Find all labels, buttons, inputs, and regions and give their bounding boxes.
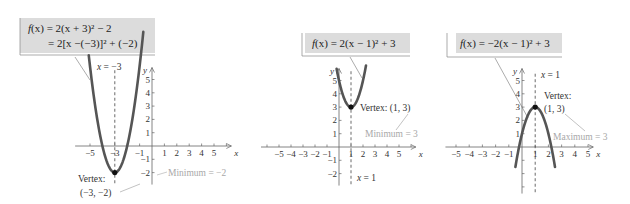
equation: f(x) = −2(x − 1)² + 3 xyxy=(460,37,550,50)
x-axis-label: x xyxy=(418,149,423,159)
x-tick-label: −1 xyxy=(504,149,514,159)
y-tick-label: 4 xyxy=(516,89,521,99)
x-tick-label: 2 xyxy=(361,149,366,159)
y-tick-label: 2 xyxy=(333,115,338,125)
axis-of-symmetry-label: x = 1 xyxy=(540,70,560,80)
y-axis-label: y xyxy=(142,65,147,75)
figure: f(x) = 2(x + 3)² − 2 = 2[x −(−3)]² + (−2… xyxy=(0,0,630,204)
equation: f(x) = 2(x − 1)² + 3 xyxy=(312,37,396,50)
x-tick-label: −3 xyxy=(298,149,308,159)
leader-line xyxy=(75,57,90,80)
plot-area: xy−5−4−3−2−11234512345 xyxy=(445,66,600,194)
x-axis-label: x xyxy=(595,149,600,159)
x-tick-label: 2 xyxy=(546,149,551,159)
y-tick-label: 5 xyxy=(146,75,151,85)
panel-3: f(x) = −2(x − 1)² + 3 xy−5−4−3−2−1123451… xyxy=(445,33,607,194)
x-tick-label: 5 xyxy=(397,149,402,159)
vertex-point xyxy=(112,170,117,175)
vertex-coords: (−3, −2) xyxy=(80,188,111,199)
panel-2: f(x) = 2(x − 1)² + 3 xy−5−4−3−2−112345−2… xyxy=(261,33,423,186)
vertex-coords: (1, 3) xyxy=(544,104,565,115)
y-tick-label: −1 xyxy=(140,154,150,164)
x-tick-label: 3 xyxy=(559,149,564,159)
x-tick-label: −3 xyxy=(478,149,488,159)
y-tick-label: −1 xyxy=(327,155,337,165)
y-tick-label: 4 xyxy=(146,88,151,98)
y-tick-label: −2 xyxy=(327,169,337,179)
x-tick-label: −5 xyxy=(451,149,461,159)
vertex-point xyxy=(348,105,353,110)
plot-area: xy−5−4−3−2−112345−2−112345 xyxy=(261,66,423,186)
equation-line-2: = 2[x −(−3)]² + (−2) xyxy=(48,37,138,50)
y-tick-label: 3 xyxy=(146,101,151,111)
y-tick-label: 5 xyxy=(333,76,338,86)
y-tick-label: 1 xyxy=(146,128,151,138)
y-tick-label: 5 xyxy=(516,76,521,86)
y-tick-label: 3 xyxy=(333,102,338,112)
y-tick-label: 2 xyxy=(516,115,521,125)
y-tick-label: 1 xyxy=(333,129,338,139)
minimum-label: Minimum = −2 xyxy=(168,168,226,178)
x-tick-label: 4 xyxy=(385,149,390,159)
vertex-label: Vertex: xyxy=(544,91,571,101)
x-axis-label: x xyxy=(233,148,238,158)
x-tick-label: −2 xyxy=(491,149,501,159)
minimum-label: Minimum = 3 xyxy=(365,129,418,139)
y-tick-label: 3 xyxy=(516,102,521,112)
x-tick-label: 5 xyxy=(586,149,591,159)
vertex-label: Vertex: xyxy=(78,174,105,184)
y-tick-label: 2 xyxy=(146,114,151,124)
axis-of-symmetry-label: x = −3 xyxy=(96,62,122,72)
y-tick-label: −2 xyxy=(140,168,150,178)
axis-of-symmetry-label: x = 1 xyxy=(356,173,376,183)
x-tick-label: −5 xyxy=(274,149,284,159)
x-tick-label: 3 xyxy=(373,149,378,159)
x-tick-label: 3 xyxy=(187,148,192,158)
vertex-label: Vertex: (1, 3) xyxy=(360,103,410,114)
equation-line-1: f(x) = 2(x + 3)² − 2 xyxy=(28,22,112,35)
maximum-label: Maximum = 3 xyxy=(553,132,608,142)
panel-1: f(x) = 2(x + 3)² − 2 = 2[x −(−3)]² + (−2… xyxy=(20,18,238,199)
x-tick-label: 5 xyxy=(212,148,217,158)
y-tick-label: 4 xyxy=(333,89,338,99)
x-tick-label: 1 xyxy=(162,148,167,158)
x-tick-label: −4 xyxy=(464,149,474,159)
y-axis-label: y xyxy=(329,66,334,76)
x-tick-label: −2 xyxy=(310,149,320,159)
x-tick-label: 2 xyxy=(175,148,180,158)
x-tick-label: 4 xyxy=(573,149,578,159)
y-axis-label: y xyxy=(512,66,517,76)
vertex-point xyxy=(533,105,538,110)
x-tick-label: 4 xyxy=(199,148,204,158)
x-tick-label: −5 xyxy=(85,148,95,158)
x-tick-label: −4 xyxy=(286,149,296,159)
y-tick-label: 1 xyxy=(516,129,521,139)
